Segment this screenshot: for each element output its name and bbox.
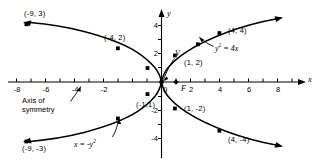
x-tick-label-4: 4 [214, 85, 226, 94]
equation-left-parabola: x = -y2 [74, 138, 96, 149]
point-label--1-1: (-1,1) [136, 101, 155, 110]
x-tick-label--8: -8 [11, 85, 23, 94]
y-tick-label-4: 4 [146, 21, 158, 30]
equation-right-rest: = 4x [221, 44, 238, 53]
y-tick-label-2: 2 [146, 49, 158, 58]
x-axis-label: x [308, 74, 312, 84]
vertex-label: V [175, 49, 180, 58]
y-tick-label--4: -4 [144, 134, 158, 143]
point-label--4-2: (-4, 2) [104, 34, 125, 43]
focus-label: F [181, 84, 186, 93]
x-tick-label-6: 6 [243, 85, 255, 94]
equation-left-exponent: 2 [93, 138, 96, 144]
x-tick-label--6: -6 [40, 85, 52, 94]
equation-left-text: x = -y [74, 140, 93, 149]
x-axis [8, 79, 306, 86]
x-tick-label-2: 2 [185, 85, 197, 94]
axis-of-symmetry-note: Axis of symmetry [22, 96, 55, 115]
origin-label: 0 [160, 85, 170, 95]
point-label-1-2: (1, 2) [184, 59, 203, 68]
point-label--9--3: (-9, -3) [22, 145, 46, 154]
point-label-1--2: (1, -2) [184, 105, 205, 114]
y-axis-label: y [167, 8, 171, 18]
graph-canvas [0, 0, 319, 168]
parabola-figure: -8 -6 -4 -2 2 4 6 8 0 4 2 -2 -4 y x (-9,… [0, 0, 319, 168]
point-label-4--4: (4, -4) [228, 136, 249, 145]
equation-right-parabola: y2 = 4x [215, 42, 238, 53]
x-tick-label-8: 8 [272, 85, 284, 94]
x-tick-label--4: -4 [69, 85, 81, 94]
point-label-4-4: (4, 4) [228, 27, 247, 36]
point-label--9-3: (-9, 3) [24, 10, 45, 19]
x-tick-label--2: -2 [98, 85, 110, 94]
